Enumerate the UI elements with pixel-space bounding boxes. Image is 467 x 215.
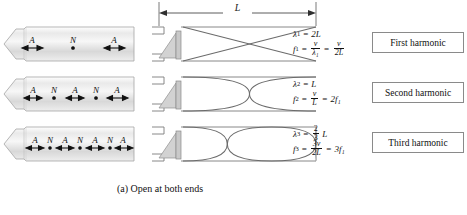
fraction-3v-2L: 3v 2L: [311, 140, 321, 157]
f-subscript: 3: [296, 145, 299, 152]
harmonic-label-text: Third harmonic: [388, 138, 447, 148]
equals-sign-2: =: [322, 94, 327, 104]
equations-third-harmonic: λ3 = 2 3 L f3 = 3v 2L = 3f₁: [293, 126, 371, 156]
harmonic-label-third: Third harmonic: [372, 132, 464, 153]
equations-second-harmonic: λ2 = L f2 = v L = 2f₁: [293, 76, 371, 106]
wavelength-equation: λ2 = L: [293, 76, 371, 91]
harmonic-label-first: First harmonic: [372, 32, 464, 53]
lambda-subscript: 3: [297, 130, 300, 137]
equals-sign-2: =: [326, 144, 331, 154]
lambda-value: L: [322, 129, 327, 139]
fraction-denominator: λ₁: [311, 48, 319, 57]
fraction-numerator: v: [313, 40, 319, 48]
fraction-denominator: L: [311, 98, 317, 107]
fraction-denominator: 2L: [311, 148, 321, 157]
figure-caption: (a) Open at both ends: [0, 183, 320, 194]
node-antinode-markers: A N A N A: [2, 72, 142, 116]
fraction-v-L: v L: [311, 90, 317, 107]
frequency-multiple: 2f₁: [330, 94, 340, 104]
lambda-subscript: 2: [297, 80, 300, 87]
fraction-v-2L: v 2L: [334, 40, 344, 57]
standing-wave-figure: L A N A: [0, 0, 467, 215]
lambda-value: 2L: [311, 29, 321, 39]
fraction-numerator: 2: [313, 125, 319, 133]
f-subscript: 2: [296, 95, 299, 102]
marker-arrows: [2, 22, 142, 66]
frequency-equation: f3 = 3v 2L = 3f₁: [293, 141, 371, 156]
equals-sign: =: [302, 144, 307, 154]
wavelength-equation: λ1 = 2L: [293, 26, 371, 41]
marker-arrows: [2, 72, 142, 116]
tube-second-harmonic: A N A N A: [2, 72, 142, 116]
frequency-equation: f2 = v L = 2f₁: [293, 91, 371, 106]
frequency-equation: f1 = v λ₁ = v 2L: [293, 41, 371, 56]
equals-sign: =: [303, 29, 308, 39]
fraction-numerator: v: [312, 90, 318, 98]
length-label: L: [150, 2, 325, 13]
tube-first-harmonic: A N A: [2, 22, 142, 66]
fraction-denominator: 2L: [334, 48, 344, 57]
equals-sign: =: [303, 79, 308, 89]
fraction-numerator: v: [336, 40, 342, 48]
harmonic-label-text: First harmonic: [390, 38, 446, 48]
fraction-numerator: 3v: [312, 140, 322, 148]
equals-sign: =: [302, 94, 307, 104]
tube-third-harmonic: A N A N A N A: [2, 122, 142, 166]
node-antinode-markers: A N A: [2, 22, 142, 66]
lambda-subscript: 1: [297, 30, 300, 37]
marker-arrows: [2, 122, 142, 166]
f-subscript: 1: [296, 45, 299, 52]
harmonic-label-second: Second harmonic: [372, 82, 464, 103]
equals-sign-2: =: [324, 44, 329, 54]
harmonic-label-text: Second harmonic: [385, 88, 451, 98]
frequency-multiple: 3f₁: [334, 144, 344, 154]
equals-sign: =: [302, 44, 307, 54]
wavelength-equation: λ3 = 2 3 L: [293, 126, 371, 141]
fraction-v-lambda: v λ₁: [311, 40, 319, 57]
node-antinode-markers: A N A N A N A: [2, 122, 142, 166]
lambda-value: L: [311, 79, 316, 89]
equations-first-harmonic: λ1 = 2L f1 = v λ₁ = v 2L: [293, 26, 371, 56]
equals-sign: =: [303, 129, 308, 139]
